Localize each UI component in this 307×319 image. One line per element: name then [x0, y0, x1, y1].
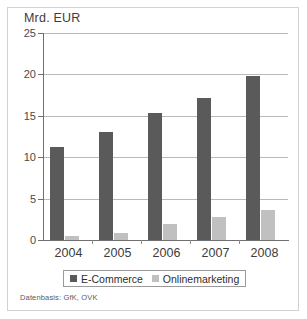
bar-e-commerce-2005	[99, 132, 113, 240]
y-tick-label-0: 0	[30, 234, 36, 246]
bar-e-commerce-2004	[50, 147, 64, 240]
bar-onlinemarketing-2004	[65, 236, 79, 240]
bar-e-commerce-2008	[246, 76, 260, 240]
x-tick-sep-4	[239, 240, 240, 244]
y-tick-15	[38, 116, 43, 117]
x-tick-label-2006: 2006	[142, 246, 191, 260]
legend-label-e-commerce: E-Commerce	[81, 273, 143, 285]
bar-group-2007	[191, 33, 240, 240]
bar-e-commerce-2007	[197, 98, 211, 240]
bar-e-commerce-2006	[148, 113, 162, 240]
bar-onlinemarketing-2006	[163, 224, 177, 240]
x-tick-sep-1	[92, 240, 93, 244]
bar-onlinemarketing-2005	[114, 233, 128, 240]
x-tick-sep-3	[190, 240, 191, 244]
legend-item-onlinemarketing[interactable]: Onlinemarketing	[152, 273, 239, 285]
x-tick-sep-2	[141, 240, 142, 244]
bar-group-2005	[93, 33, 142, 240]
y-tick-10	[38, 157, 43, 158]
y-tick-label-20: 20	[24, 68, 36, 80]
chart-legend: E-Commerce Onlinemarketing	[63, 270, 246, 287]
y-tick-label-25: 25	[24, 27, 36, 39]
bar-onlinemarketing-2008	[261, 210, 275, 240]
legend-item-e-commerce[interactable]: E-Commerce	[70, 273, 143, 285]
y-tick-label-5: 5	[30, 193, 36, 205]
x-tick-label-2008: 2008	[240, 246, 289, 260]
legend-swatch-icon-e-commerce	[70, 275, 77, 282]
x-tick-label-2007: 2007	[191, 246, 240, 260]
x-tick-label-2004: 2004	[44, 246, 93, 260]
y-tick-0	[38, 240, 43, 241]
bars-layer	[44, 33, 289, 240]
y-axis-labels: 25 20 15 10 5 0	[0, 0, 36, 319]
bar-group-2008	[240, 33, 289, 240]
y-tick-label-15: 15	[24, 110, 36, 122]
bar-group-2006	[142, 33, 191, 240]
y-tick-5	[38, 199, 43, 200]
legend-swatch-icon-onlinemarketing	[152, 275, 159, 282]
y-tick-25	[38, 33, 43, 34]
bar-group-2004	[44, 33, 93, 240]
legend-label-onlinemarketing: Onlinemarketing	[163, 273, 239, 285]
chart-footnote: Datenbasis: GfK, OVK	[20, 293, 98, 302]
x-tick-label-2005: 2005	[93, 246, 142, 260]
x-axis-line	[43, 240, 289, 241]
y-tick-label-10: 10	[24, 151, 36, 163]
y-tick-20	[38, 74, 43, 75]
bar-onlinemarketing-2007	[212, 217, 226, 240]
chart-screenshot: Mrd. EUR 25 20 15 10 5 0 2004 2005 2006 …	[0, 0, 307, 319]
